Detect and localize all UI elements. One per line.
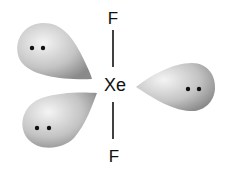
xef2-diagram: F Xe F [0, 0, 232, 169]
atom-f-top: F [108, 9, 118, 28]
electron-dot [35, 126, 39, 130]
lone-pair-lobe-lower-left [22, 93, 97, 148]
electron-dot [197, 87, 201, 91]
atom-xe-central: Xe [104, 75, 126, 95]
electron-dot [186, 87, 190, 91]
lone-pair-lobe-right [136, 63, 215, 111]
electron-dot [47, 126, 51, 130]
electron-dot [41, 46, 45, 50]
electron-dot [30, 46, 34, 50]
lone-pair-lobe-upper-left [17, 23, 92, 79]
atom-f-bottom: F [109, 147, 119, 166]
